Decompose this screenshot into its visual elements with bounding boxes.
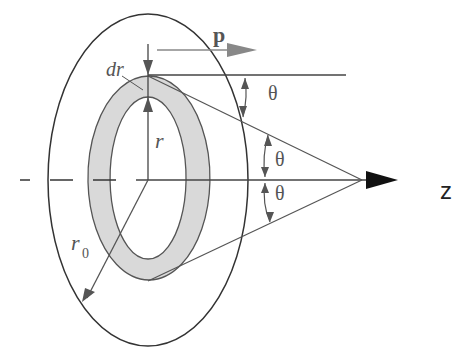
label-r0-subscript: 0 <box>82 246 89 261</box>
label-z: z <box>440 177 452 204</box>
label-r: r <box>155 128 164 153</box>
disk-geometry-diagram: p dr r r 0 θ θ θ z <box>0 0 469 351</box>
theta-arc-mid-head1 <box>264 135 272 146</box>
theta-arc-low-head2 <box>266 212 274 222</box>
r0-arrowhead <box>82 288 95 302</box>
theta-arc-mid-head2 <box>261 167 269 177</box>
label-theta-mid: θ <box>275 148 285 170</box>
z-axis-arrowhead <box>366 171 398 189</box>
label-r0: r <box>71 230 80 255</box>
theta-arc-low-head1 <box>261 183 269 193</box>
label-theta-low: θ <box>275 182 285 204</box>
dr-arrow-down <box>143 60 153 75</box>
dr-arrow-up <box>143 97 153 112</box>
p-arrowhead <box>227 43 257 57</box>
label-p: p <box>213 22 225 47</box>
theta-arc-top-head1 <box>241 78 249 89</box>
label-theta-top: θ <box>268 82 278 104</box>
label-dr: dr <box>106 58 124 80</box>
